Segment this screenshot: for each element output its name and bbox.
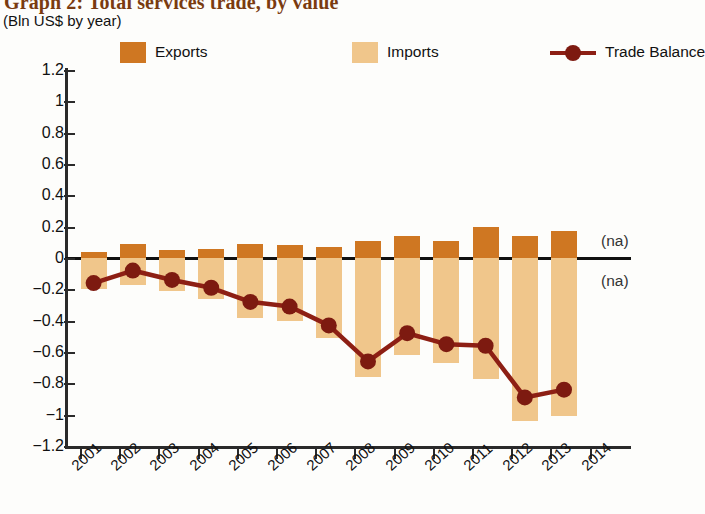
y-axis-tick-label: 0.4 xyxy=(18,186,64,204)
trade-balance-line xyxy=(65,70,594,446)
balance-data-point xyxy=(125,263,141,279)
legend-swatch-icon xyxy=(120,42,146,63)
legend-label: Trade Balance xyxy=(605,43,705,61)
y-axis-tick-label: −0.6 xyxy=(18,343,64,361)
balance-data-point xyxy=(203,280,219,296)
y-axis-tick xyxy=(64,446,75,448)
legend-line-marker-icon xyxy=(550,42,596,63)
na-annotation: (na) xyxy=(601,232,629,250)
chart-subtitle: (Bln US$ by year) xyxy=(3,12,121,29)
balance-polyline xyxy=(94,271,564,398)
balance-data-point xyxy=(517,389,533,405)
na-annotation: (na) xyxy=(601,272,629,290)
balance-data-point xyxy=(478,338,494,354)
y-axis-tick-label: −1 xyxy=(18,406,64,424)
balance-data-point xyxy=(242,294,258,310)
y-axis-tick-label: 1.2 xyxy=(18,61,64,79)
balance-data-point xyxy=(86,275,102,291)
legend-item-imports: Imports xyxy=(352,40,439,64)
legend-label: Imports xyxy=(387,43,439,61)
y-axis-tick-label: −0.8 xyxy=(18,374,64,392)
balance-data-point xyxy=(438,336,454,352)
y-axis-tick-label: 0.8 xyxy=(18,124,64,142)
y-axis-tick-label: 0.2 xyxy=(18,218,64,236)
x-axis-line xyxy=(65,446,631,449)
legend-item-trade-balance: Trade Balance xyxy=(550,40,705,64)
y-axis-tick-label: 0.6 xyxy=(18,155,64,173)
plot-area: 1.210.80.60.40.20−0.2−0.4−0.6−0.8−1−1.2 xyxy=(65,70,594,446)
y-axis-tick-label: 1 xyxy=(18,92,64,110)
legend-label: Exports xyxy=(155,43,208,61)
balance-data-point xyxy=(556,382,572,398)
y-axis-tick-label: −0.4 xyxy=(18,312,64,330)
legend-swatch-icon xyxy=(352,42,378,63)
legend-item-exports: Exports xyxy=(120,40,208,64)
y-axis-tick-label: −1.2 xyxy=(18,437,64,455)
balance-data-point xyxy=(360,353,376,369)
y-axis-labels: 1.210.80.60.40.20−0.2−0.4−0.6−0.8−1−1.2 xyxy=(8,70,64,446)
balance-data-point xyxy=(399,325,415,341)
y-axis-tick-label: 0 xyxy=(18,249,64,267)
y-axis-tick-label: −0.2 xyxy=(18,280,64,298)
balance-data-point xyxy=(164,272,180,288)
balance-data-point xyxy=(321,317,337,333)
chart-legend: ExportsImportsTrade Balance xyxy=(120,40,640,64)
balance-data-point xyxy=(282,299,298,315)
